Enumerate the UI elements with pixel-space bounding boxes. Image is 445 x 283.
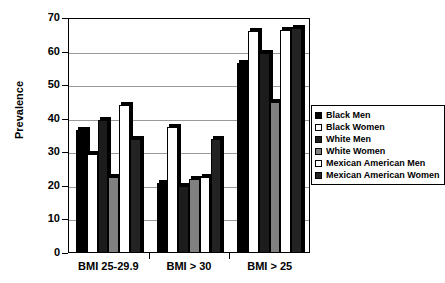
bar-body bbox=[167, 127, 178, 253]
bar bbox=[167, 127, 178, 253]
legend-item: White Women bbox=[315, 145, 440, 157]
legend-item: Mexican American Women bbox=[315, 169, 440, 181]
y-axis-label: 70 bbox=[16, 12, 60, 23]
bar bbox=[248, 31, 259, 253]
bar-body bbox=[280, 30, 291, 253]
legend-item: Black Men bbox=[315, 109, 440, 121]
legend-swatch bbox=[315, 112, 322, 119]
bar-side-edge bbox=[141, 136, 144, 253]
legend-label: White Women bbox=[326, 147, 385, 156]
bar bbox=[157, 183, 168, 254]
bar bbox=[108, 177, 119, 253]
x-axis-tick bbox=[229, 253, 230, 259]
bar bbox=[280, 30, 291, 253]
bar-body bbox=[237, 63, 248, 253]
y-axis-label: 30 bbox=[16, 146, 60, 157]
bar-group bbox=[149, 18, 230, 253]
bars-layer bbox=[68, 18, 310, 253]
bar-body bbox=[200, 177, 211, 253]
legend-item: White Men bbox=[315, 133, 440, 145]
bar-side-edge bbox=[221, 136, 224, 253]
bar-body bbox=[108, 177, 119, 253]
y-axis-tick bbox=[62, 253, 68, 254]
legend-swatch bbox=[315, 136, 322, 143]
bar-body bbox=[130, 139, 141, 253]
bar bbox=[270, 102, 281, 253]
legend-item: Black Women bbox=[315, 121, 440, 133]
y-axis-label: 40 bbox=[16, 113, 60, 124]
bar bbox=[87, 154, 98, 253]
bar bbox=[211, 139, 222, 253]
bar bbox=[200, 177, 211, 253]
legend-label: Mexican American Women bbox=[326, 171, 440, 180]
y-axis-label: 60 bbox=[16, 46, 60, 57]
bar-body bbox=[76, 130, 87, 253]
bar-side-edge bbox=[302, 25, 305, 253]
bar bbox=[259, 53, 270, 253]
bar bbox=[189, 179, 200, 253]
y-axis-label: 0 bbox=[16, 247, 60, 258]
bar-body bbox=[87, 154, 98, 253]
bar-group bbox=[229, 18, 310, 253]
bar bbox=[237, 63, 248, 253]
bar bbox=[119, 105, 130, 253]
x-axis-category-label: BMI > 25 bbox=[229, 260, 310, 272]
bar-body bbox=[248, 31, 259, 253]
legend-swatch bbox=[315, 172, 322, 179]
x-axis-tick bbox=[149, 253, 150, 259]
bar-body bbox=[270, 102, 281, 253]
bar-group bbox=[68, 18, 149, 253]
bar-body bbox=[291, 28, 302, 253]
bar bbox=[98, 120, 109, 253]
legend-label: Black Men bbox=[326, 111, 371, 120]
y-axis-label: 50 bbox=[16, 79, 60, 90]
bar-body bbox=[98, 120, 109, 253]
legend-swatch bbox=[315, 148, 322, 155]
bar bbox=[76, 130, 87, 253]
bar-body bbox=[189, 179, 200, 253]
bar bbox=[291, 28, 302, 253]
chart-legend: Black MenBlack WomenWhite MenWhite Women… bbox=[311, 105, 445, 185]
legend-item: Mexican American Men bbox=[315, 157, 440, 169]
bar-body bbox=[211, 139, 222, 253]
bar bbox=[178, 186, 189, 253]
legend-swatch bbox=[315, 124, 322, 131]
legend-swatch bbox=[315, 160, 322, 167]
bar-body bbox=[157, 183, 168, 254]
x-axis-category-label: BMI > 30 bbox=[149, 260, 230, 272]
y-axis-label: 20 bbox=[16, 180, 60, 191]
bar-body bbox=[259, 53, 270, 253]
bar bbox=[130, 139, 141, 253]
bar-body bbox=[119, 105, 130, 253]
legend-label: White Men bbox=[326, 135, 371, 144]
y-axis-label: 10 bbox=[16, 213, 60, 224]
bar-body bbox=[178, 186, 189, 253]
x-axis-category-label: BMI 25-29.9 bbox=[68, 260, 149, 272]
legend-label: Mexican American Men bbox=[326, 159, 425, 168]
legend-label: Black Women bbox=[326, 123, 385, 132]
